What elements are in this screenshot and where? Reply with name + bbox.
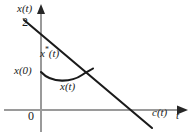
y-axis-arrowhead (37, 4, 45, 14)
y-axis-label: x(t) (17, 3, 32, 14)
x-axis-label: t (176, 110, 179, 121)
y-axis-tick-2: 2 (22, 16, 28, 28)
initial-state-label: x(0) (14, 65, 32, 76)
figure-root: x(t) 2 x*(t) x(0) x(t) 0 c(t) t (0, 0, 191, 140)
optimal-trajectory-label: x*(t) (40, 46, 59, 59)
state-trajectory-label: x(t) (60, 81, 75, 92)
optimal-trajectory-arg: (t) (49, 47, 59, 59)
control-label: c(t) (152, 107, 167, 118)
origin-label: 0 (28, 110, 34, 122)
